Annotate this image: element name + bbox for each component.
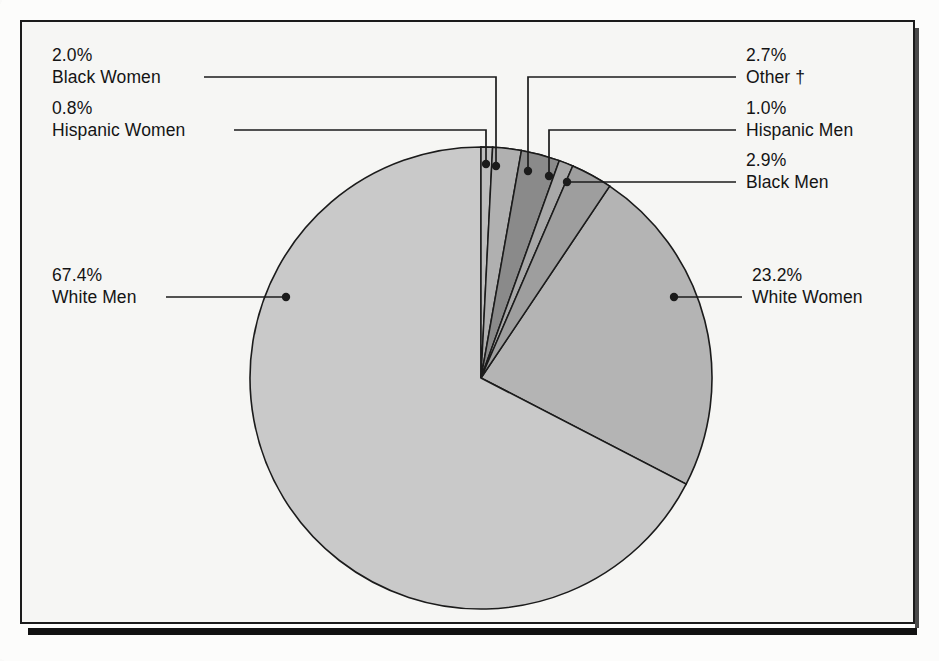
pie-label-black-women-percent: 2.0% bbox=[52, 44, 161, 66]
pie-label-white-women-percent: 23.2% bbox=[752, 264, 863, 286]
leader-line-other bbox=[528, 77, 736, 171]
pie-label-hispanic-men-percent: 1.0% bbox=[746, 97, 853, 119]
pie-label-white-men[interactable]: 67.4% White Men bbox=[52, 264, 137, 308]
pie-label-white-men-percent: 67.4% bbox=[52, 264, 137, 286]
pie-label-hispanic-women-percent: 0.8% bbox=[52, 97, 185, 119]
footnote-strip bbox=[0, 646, 939, 661]
pie-label-black-men[interactable]: 2.9% Black Men bbox=[746, 149, 829, 193]
pie-label-black-women[interactable]: 2.0% Black Women bbox=[52, 44, 161, 88]
pie-label-white-women-name: White Women bbox=[752, 286, 863, 308]
pie-label-other[interactable]: 2.7% Other † bbox=[746, 44, 805, 88]
pie-label-hispanic-men-name: Hispanic Men bbox=[746, 119, 853, 141]
leader-dot-black-men bbox=[563, 178, 571, 186]
leader-dot-other bbox=[524, 167, 532, 175]
pie-label-white-women[interactable]: 23.2% White Women bbox=[752, 264, 863, 308]
leader-dot-hispanic-women bbox=[482, 160, 490, 168]
chart-page: 2.0% Black Women 0.8% Hispanic Women 67.… bbox=[0, 0, 939, 661]
pie-label-hispanic-women-name: Hispanic Women bbox=[52, 119, 185, 141]
leader-dot-white-women bbox=[670, 293, 678, 301]
pie-label-black-women-name: Black Women bbox=[52, 66, 161, 88]
pie-label-other-name: Other † bbox=[746, 66, 805, 88]
pie-label-black-men-percent: 2.9% bbox=[746, 149, 829, 171]
pie-label-hispanic-women[interactable]: 0.8% Hispanic Women bbox=[52, 97, 185, 141]
leader-dot-white-men bbox=[282, 293, 290, 301]
pie-label-other-percent: 2.7% bbox=[746, 44, 805, 66]
pie-label-white-men-name: White Men bbox=[52, 286, 137, 308]
pie-label-black-men-name: Black Men bbox=[746, 171, 829, 193]
pie-label-hispanic-men[interactable]: 1.0% Hispanic Men bbox=[746, 97, 853, 141]
leader-dot-hispanic-men bbox=[545, 172, 553, 180]
leader-dot-black-women bbox=[492, 162, 500, 170]
